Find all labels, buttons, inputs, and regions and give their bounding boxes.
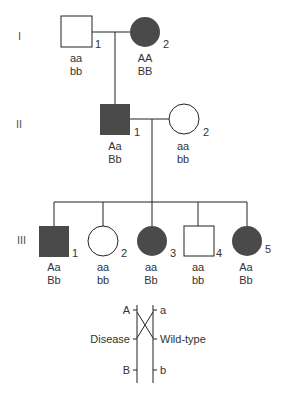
allele-label-b: b (160, 364, 166, 376)
generation-label-2: II (16, 118, 22, 130)
genotype-locus-a: aa (97, 261, 110, 273)
genotype-locus-b: bb (192, 274, 204, 286)
genotype-locus-a: Aa (108, 140, 122, 152)
male-unaffected-symbol (184, 226, 214, 256)
genotype-locus-b: Bb (239, 274, 252, 286)
genotype-locus-b: BB (138, 65, 153, 77)
genotype-locus-a: aa (177, 140, 190, 152)
individual-number: 5 (265, 243, 271, 255)
gen2-individual-2: 2 aa bb (169, 104, 209, 165)
genotype-locus-b: bb (177, 153, 189, 165)
individual-number: 1 (72, 247, 78, 259)
genotype-locus-a: aa (192, 261, 205, 273)
individual-number: 4 (216, 247, 222, 259)
genotype-locus-b: Bb (144, 274, 157, 286)
gen3-individual-5: 5 Aa Bb (232, 226, 271, 286)
male-unaffected-symbol (61, 16, 92, 47)
generation-label-1: I (18, 30, 21, 42)
gen3-individual-4: 4 aa bb (184, 226, 222, 286)
individual-number: 2 (203, 126, 209, 138)
genotype-locus-a: aa (145, 261, 158, 273)
individual-number: 1 (134, 126, 140, 138)
genotype-locus-b: Bb (108, 153, 121, 165)
male-affected-symbol (39, 226, 69, 257)
gen1-individual-2: 2 AA BB (130, 17, 169, 77)
wild-type-label: Wild-type (160, 333, 206, 345)
female-affected-symbol (137, 226, 167, 256)
female-affected-symbol (232, 226, 262, 256)
genotype-locus-b: bb (70, 65, 82, 77)
allele-label-a: a (160, 304, 167, 316)
chromosome-diagram: A a Disease Wild-type B b (90, 304, 206, 383)
genotype-locus-a: aa (70, 52, 83, 64)
generation-label-3: III (17, 234, 26, 246)
gen3-individual-2: 2 aa bb (88, 226, 127, 286)
individual-number: 3 (170, 247, 176, 259)
gen3-individual-3: 3 aa Bb (137, 226, 176, 286)
male-affected-symbol (100, 104, 130, 135)
gen3-individual-1: 1 Aa Bb (39, 226, 78, 286)
female-unaffected-symbol (169, 104, 199, 134)
individual-number: 2 (163, 38, 169, 50)
allele-label-B: B (123, 364, 130, 376)
gen2-individual-1: 1 Aa Bb (100, 104, 140, 165)
individual-number: 1 (95, 38, 101, 50)
genotype-locus-b: Bb (47, 274, 60, 286)
disease-label: Disease (90, 333, 130, 345)
genotype-locus-a: Aa (239, 261, 253, 273)
pedigree-diagram: I II III 1 aa bb 2 AA BB 1 Aa Bb 2 aa bb… (0, 0, 290, 396)
genotype-locus-a: Aa (47, 261, 61, 273)
genotype-locus-b: bb (97, 274, 109, 286)
female-affected-symbol (130, 17, 160, 47)
female-unaffected-symbol (88, 226, 118, 256)
gen1-individual-1: 1 aa bb (61, 16, 101, 77)
allele-label-A: A (123, 304, 131, 316)
individual-number: 2 (121, 247, 127, 259)
genotype-locus-a: AA (138, 52, 153, 64)
